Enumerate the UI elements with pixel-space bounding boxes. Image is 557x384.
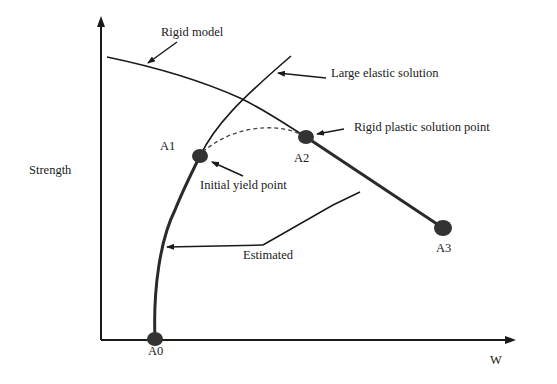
point-a3: [434, 220, 452, 236]
rigid-plastic-arrow-icon: [317, 129, 344, 134]
diagram-canvas: Strength W Rigid model Large elastic sol…: [0, 0, 557, 384]
point-a1: [192, 149, 208, 163]
large-elastic-arrow-icon: [278, 73, 326, 78]
rigid-model-label: Rigid model: [161, 25, 224, 39]
point-a1-label: A1: [160, 139, 175, 153]
y-axis-label: Strength: [29, 163, 72, 177]
point-a2-label: A2: [294, 151, 309, 165]
point-a0-label: A0: [148, 344, 163, 358]
annotation-arrows: [148, 42, 360, 247]
large-elastic-curve: [200, 56, 291, 156]
y-axis-arrow-icon: [97, 16, 105, 27]
transition-dashed-arc: [203, 128, 300, 152]
rigid-model-arrow-icon: [148, 42, 177, 63]
large-elastic-label: Large elastic solution: [331, 66, 439, 80]
axes: [97, 16, 516, 344]
x-axis-arrow-icon: [505, 336, 516, 344]
labels: Strength W Rigid model Large elastic sol…: [29, 25, 502, 367]
x-axis-label: W: [490, 353, 502, 367]
rigid-plastic-point-label: Rigid plastic solution point: [354, 120, 490, 134]
estimated-arrow-icon: [167, 245, 263, 247]
estimated-leader-line: [263, 192, 360, 245]
point-a3-label: A3: [436, 241, 451, 255]
initial-yield-arrow-icon: [212, 162, 243, 176]
initial-yield-label: Initial yield point: [200, 178, 287, 192]
estimated-label: Estimated: [243, 248, 294, 262]
point-a2: [298, 130, 314, 144]
rigid-plastic-segment: [306, 137, 443, 228]
